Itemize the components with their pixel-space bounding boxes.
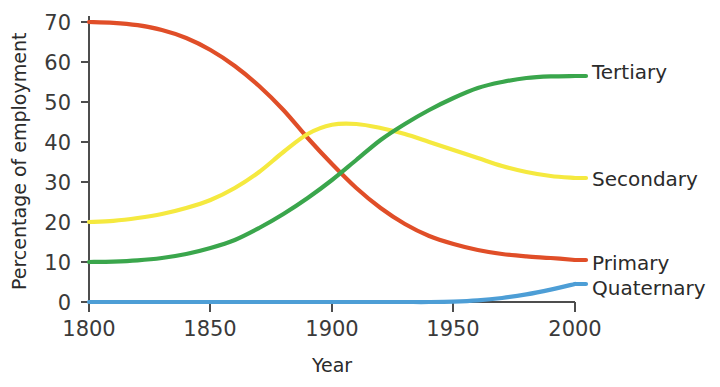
y-tick-label-30: 30	[44, 171, 71, 195]
y-tick-label-50: 50	[44, 91, 71, 115]
y-tick-label-60: 60	[44, 51, 71, 75]
y-tick-label-0: 0	[58, 291, 71, 315]
series-line-quaternary	[89, 284, 575, 302]
y-axis-title: Percentage of employment	[8, 33, 30, 290]
y-tick-label-70: 70	[44, 11, 71, 35]
x-tick-label-1900: 1900	[305, 317, 358, 341]
series-line-primary	[89, 22, 575, 260]
x-tick-label-1850: 1850	[183, 317, 236, 341]
series-line-tertiary	[89, 76, 575, 262]
x-tick-label-1800: 1800	[62, 317, 115, 341]
series-label-primary: Primary	[592, 251, 669, 275]
chart-svg: Percentage of employment 70 60 50 40 30 …	[0, 0, 720, 387]
series-line-secondary	[89, 124, 575, 222]
x-tick-label-1950: 1950	[426, 317, 479, 341]
series-label-quaternary: Quaternary	[592, 276, 706, 300]
series-label-tertiary: Tertiary	[591, 60, 667, 84]
y-tick-marks	[81, 22, 89, 302]
x-tick-label-2000: 2000	[548, 317, 601, 341]
y-tick-label-40: 40	[44, 131, 71, 155]
x-axis-title: Year	[311, 354, 352, 376]
y-tick-label-20: 20	[44, 211, 71, 235]
series-label-secondary: Secondary	[592, 167, 698, 191]
y-tick-label-10: 10	[44, 251, 71, 275]
employment-sector-chart: Percentage of employment 70 60 50 40 30 …	[0, 0, 720, 387]
